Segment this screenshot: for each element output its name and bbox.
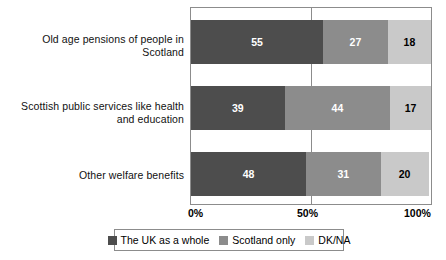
- bar-segment-dk-na: 18: [388, 20, 431, 64]
- legend-item-dk-na: DK/NA: [305, 234, 350, 246]
- legend-item-scotland-only: Scotland only: [219, 234, 295, 246]
- bar-segment-uk-as-a-whole: 55: [191, 20, 323, 64]
- plot-area: 55 27 18 39 44 17 48 31 20: [190, 7, 432, 205]
- chart-legend: The UK as a whole Scotland only DK/NA: [114, 229, 344, 251]
- bar-segment-dk-na: 20: [381, 152, 429, 196]
- legend-label: The UK as a whole: [121, 234, 210, 246]
- legend-label: DK/NA: [318, 234, 350, 246]
- bar-row: 55 27 18: [191, 20, 431, 64]
- category-label-scottish-public-services: Scottish public services like health and…: [4, 100, 184, 126]
- bar-segment-uk-as-a-whole: 48: [191, 152, 306, 196]
- legend-swatch-icon: [108, 236, 117, 245]
- category-label-old-age-pensions: Old age pensions of people in Scotland: [4, 33, 184, 59]
- category-label-other-welfare-benefits: Other welfare benefits: [4, 169, 184, 182]
- x-axis-tick-0: 0%: [188, 207, 203, 219]
- bar-segment-scotland-only: 44: [285, 86, 391, 130]
- bar-row: 39 44 17: [191, 86, 431, 130]
- bar-row: 48 31 20: [191, 152, 431, 196]
- bar-segment-scotland-only: 27: [323, 20, 388, 64]
- stacked-bar-chart: Old age pensions of people in Scotland S…: [0, 0, 446, 260]
- bar-segment-dk-na: 17: [390, 86, 431, 130]
- bar-segment-uk-as-a-whole: 39: [191, 86, 285, 130]
- x-axis-tick-100: 100%: [404, 207, 431, 219]
- legend-swatch-icon: [219, 236, 228, 245]
- legend-label: Scotland only: [232, 234, 295, 246]
- legend-item-uk-as-a-whole: The UK as a whole: [108, 234, 210, 246]
- x-axis-tick-50: 50%: [297, 207, 318, 219]
- bar-segment-scotland-only: 31: [306, 152, 380, 196]
- legend-swatch-icon: [305, 236, 314, 245]
